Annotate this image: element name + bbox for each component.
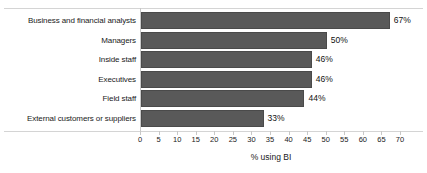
bar-row: External customers or suppliers33% [0, 109, 427, 128]
category-label: Business and financial analysts [0, 11, 136, 30]
category-label: Executives [0, 70, 136, 89]
x-axis: 0510152025303540455055606570 [0, 131, 427, 151]
top-divider [4, 8, 423, 9]
bar-row: Managers50% [0, 31, 427, 50]
x-axis-tick-label: 70 [388, 135, 412, 144]
bar-value-label: 50% [331, 31, 348, 50]
plot-area: Business and financial analysts67%Manage… [0, 11, 427, 131]
bar-value-label: 46% [316, 70, 333, 89]
bar-value-label: 33% [268, 109, 285, 128]
bar [141, 12, 390, 29]
category-label: Managers [0, 31, 136, 50]
bar-value-label: 46% [316, 50, 333, 69]
bar-value-label: 44% [308, 89, 325, 108]
category-label: Field staff [0, 89, 136, 108]
category-label: Inside staff [0, 50, 136, 69]
bar-row: Executives46% [0, 70, 427, 89]
bar [141, 90, 304, 107]
category-label: External customers or suppliers [0, 109, 136, 128]
bar [141, 51, 312, 68]
bar-chart: Business and financial analysts67%Manage… [0, 0, 427, 173]
bar-value-label: 67% [394, 11, 411, 30]
bar-row: Inside staff46% [0, 50, 427, 69]
x-axis-title: % using BI [140, 152, 402, 162]
bar [141, 110, 264, 127]
bar [141, 71, 312, 88]
bar-row: Business and financial analysts67% [0, 11, 427, 30]
bar [141, 32, 327, 49]
bar-row: Field staff44% [0, 89, 427, 108]
